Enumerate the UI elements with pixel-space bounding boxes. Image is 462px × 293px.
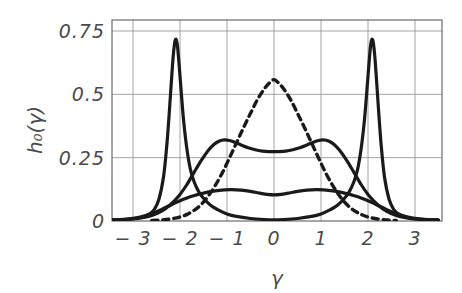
x-tick-label: 3	[408, 227, 421, 249]
y-tick-label: 0.75	[59, 20, 105, 42]
x-tick-label: 2	[361, 227, 374, 249]
x-tick-label: − 2	[161, 227, 198, 249]
x-tick-label: 0	[267, 227, 280, 249]
y-tick-label: 0.5	[72, 83, 105, 105]
y-tick-label: 0	[92, 210, 105, 232]
x-axis-label: γ	[271, 266, 284, 290]
x-axis-tick-labels: − 3− 2− 10123	[114, 227, 421, 249]
y-axis-tick-labels: 00.250.50.75	[59, 20, 105, 232]
x-tick-label: − 1	[208, 227, 245, 249]
x-tick-label: 1	[314, 227, 327, 249]
chart-figure: − 3− 2− 10123 00.250.50.75 γ h₀(γ)	[0, 0, 462, 293]
plot-area	[110, 20, 443, 221]
y-axis-label: h₀(γ)	[23, 106, 47, 154]
y-tick-label: 0.25	[59, 147, 105, 169]
x-tick-label: − 3	[114, 227, 151, 249]
